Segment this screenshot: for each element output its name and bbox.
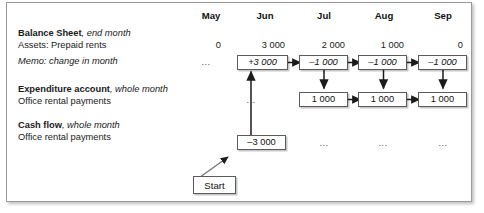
column-header-jun: Jun bbox=[245, 10, 285, 21]
row-label-assets: Assets: Prepaid rents bbox=[18, 40, 106, 51]
assets-value-may: 0 bbox=[181, 40, 221, 50]
row-label-memo: Memo: change in month bbox=[18, 56, 118, 67]
expenditure-box-sep: 1 000 bbox=[418, 92, 467, 107]
section-heading-expenditure-account: Expenditure account, whole month bbox=[18, 84, 168, 95]
cashflow-value-sep: ... bbox=[428, 138, 458, 148]
section-heading-cash-flow: Cash flow, whole month bbox=[18, 120, 120, 131]
assets-value-sep: 0 bbox=[418, 40, 463, 50]
start-label-box: Start bbox=[193, 176, 236, 194]
column-header-sep: Sep bbox=[423, 10, 463, 21]
memo-value-may: ... bbox=[191, 57, 221, 67]
expenditure-box-aug: 1 000 bbox=[358, 92, 407, 107]
row-label-office-rental-expenditure: Office rental payments bbox=[18, 96, 111, 107]
assets-value-jul: 2 000 bbox=[300, 40, 345, 50]
section-heading-italic: , whole month bbox=[110, 84, 168, 94]
section-heading-bold: Cash flow bbox=[18, 120, 62, 130]
memo-box-jun: +3 000 bbox=[237, 55, 288, 70]
expenditure-box-jul: 1 000 bbox=[299, 92, 348, 107]
memo-box-jul: –1 000 bbox=[299, 55, 348, 70]
cashflow-value-aug: ... bbox=[368, 138, 398, 148]
section-heading-balance-sheet: Balance Sheet, end month bbox=[18, 28, 131, 39]
cashflow-value-jul: ... bbox=[309, 138, 339, 148]
cashflow-box-jun: –3 000 bbox=[237, 135, 286, 150]
assets-value-aug: 1 000 bbox=[359, 40, 404, 50]
expenditure-value-jun: ... bbox=[236, 95, 266, 105]
assets-value-jun: 3 000 bbox=[240, 40, 285, 50]
column-header-jul: Jul bbox=[304, 10, 344, 21]
section-heading-italic: , whole month bbox=[62, 120, 120, 130]
column-header-may: May bbox=[191, 10, 231, 21]
column-header-aug: Aug bbox=[364, 10, 404, 21]
row-label-office-rental-cashflow: Office rental payments bbox=[18, 132, 111, 143]
section-heading-italic: , end month bbox=[82, 28, 131, 38]
section-heading-bold: Expenditure account bbox=[18, 84, 110, 94]
memo-box-sep: –1 000 bbox=[418, 55, 467, 70]
figure-root: May Jun Jul Aug Sep Balance Sheet, end m… bbox=[0, 0, 484, 213]
memo-box-aug: –1 000 bbox=[358, 55, 407, 70]
section-heading-bold: Balance Sheet bbox=[18, 28, 82, 38]
